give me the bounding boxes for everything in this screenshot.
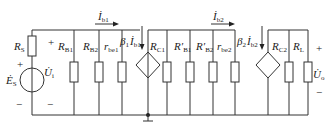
rb2-prime-label: R′B2 <box>195 40 214 54</box>
uo-plus: + <box>316 42 322 54</box>
es-label: ĖS <box>5 74 17 88</box>
arrow-right-icon <box>229 22 235 27</box>
rs-label: RS <box>13 40 25 54</box>
rc1-label: RC1 <box>149 40 165 54</box>
uo-label: U̇o <box>313 68 325 82</box>
rbe1-label: rbe1 <box>104 40 119 54</box>
uo-minus: − <box>316 86 322 98</box>
rb2-branch <box>95 30 103 115</box>
ib1-label: İb1 <box>97 10 109 24</box>
rb1-branch <box>70 30 78 115</box>
rbe2-label: rbe2 <box>217 40 232 54</box>
ui-minus: − <box>47 98 53 110</box>
rc1-branch <box>163 30 171 115</box>
ib2-label: İb2 <box>212 10 224 24</box>
rc2-label: RC2 <box>271 40 287 54</box>
beta1-label: β1İb1 <box>119 35 141 49</box>
arrow-right-icon <box>113 22 119 27</box>
rb1-prime-label: R′B1 <box>173 40 192 54</box>
diamond-source-icon <box>256 52 280 78</box>
es-plus: + <box>17 58 23 70</box>
rb2-label: RB2 <box>82 40 98 54</box>
rb1-prime-branch <box>186 30 194 115</box>
circuit-diagram: RS + ĖS − + U̇i − RB1 RB2 rbe1 İb1 β1İb1… <box>0 0 330 130</box>
es-minus: − <box>16 98 22 110</box>
beta2-label: β2İb2 <box>236 35 258 49</box>
rc2-branch <box>285 30 293 115</box>
rl-label: RL <box>292 40 304 54</box>
rs-resistor <box>28 36 36 56</box>
rl-branch <box>304 30 312 115</box>
ui-label: U̇i <box>44 66 54 80</box>
ui-plus: + <box>48 36 54 48</box>
ground-icon <box>143 113 153 121</box>
arrow-down-icon <box>260 44 265 50</box>
rb1-label: RB1 <box>57 40 73 54</box>
rb2-prime-branch <box>209 30 217 115</box>
